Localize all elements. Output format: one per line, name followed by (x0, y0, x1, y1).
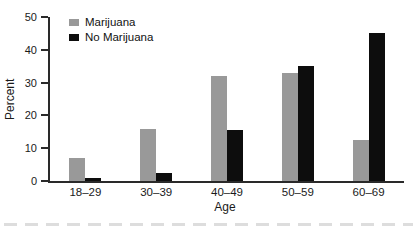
legend-label: No Marijuana (85, 31, 153, 43)
y-tick-label: 30 (25, 77, 37, 88)
bar-no-marijuana (227, 130, 243, 181)
y-tick-label: 10 (25, 143, 37, 154)
cropped-text-artifact (4, 223, 413, 226)
x-tick-label: 60–69 (323, 186, 414, 198)
y-tick: 40 (41, 49, 48, 51)
legend-entry: No Marijuana (69, 31, 153, 43)
y-tick: 50 (41, 16, 48, 18)
bar-no-marijuana (369, 33, 385, 181)
bar-no-marijuana (156, 173, 172, 181)
y-tick: 30 (41, 82, 48, 84)
y-tick-label: 0 (31, 176, 37, 187)
y-tick-label: 40 (25, 44, 37, 55)
bar-no-marijuana (298, 66, 314, 181)
y-tick: 0 (41, 180, 48, 182)
y-tick: 10 (41, 147, 48, 149)
legend: MarijuanaNo Marijuana (69, 16, 153, 43)
legend-swatch-icon (69, 19, 79, 26)
bar-group: 60–69 (333, 17, 404, 181)
y-tick-label: 20 (25, 110, 37, 121)
legend-swatch-icon (69, 34, 79, 41)
bar-chart-figure: Percent 18–2930–3940–4950–5960–69 010203… (0, 0, 417, 227)
legend-label: Marijuana (85, 16, 136, 28)
bar-no-marijuana (85, 178, 101, 181)
bar-marijuana (69, 158, 85, 181)
bar-marijuana (353, 140, 369, 181)
y-axis-title: Percent (3, 17, 17, 181)
bar-marijuana (140, 129, 156, 181)
y-tick-label: 50 (25, 12, 37, 23)
x-axis-title: Age (48, 200, 402, 214)
bar-marijuana (282, 73, 298, 181)
legend-entry: Marijuana (69, 16, 153, 28)
bar-marijuana (211, 76, 227, 181)
y-tick: 20 (41, 114, 48, 116)
bar-group: 50–59 (262, 17, 333, 181)
bar-group: 40–49 (192, 17, 263, 181)
